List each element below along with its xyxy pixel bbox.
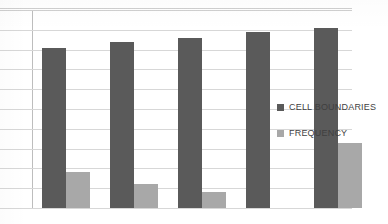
legend-entry-label: FREQUENCY: [289, 129, 347, 138]
bar-chart: CELL BOUNDARIES FREQUENCY: [0, 0, 388, 224]
legend-entry-label: CELL BOUNDARIES: [289, 103, 376, 112]
bar-frequency[interactable]: [134, 184, 158, 208]
gridline: [0, 208, 352, 209]
bar-cell-boundaries[interactable]: [178, 38, 202, 208]
bar-frequency[interactable]: [202, 192, 226, 208]
bar-cell-boundaries[interactable]: [42, 48, 66, 208]
bar-frequency[interactable]: [338, 143, 362, 208]
legend-swatch-icon: [277, 104, 284, 111]
legend-entry-cell-boundaries[interactable]: CELL BOUNDARIES: [277, 98, 385, 116]
bar-frequency[interactable]: [66, 172, 90, 208]
legend-swatch-icon: [277, 130, 284, 137]
chart-legend: CELL BOUNDARIES FREQUENCY: [277, 98, 385, 150]
gridline: [0, 8, 352, 9]
bar-cell-boundaries[interactable]: [110, 42, 134, 208]
legend-entry-frequency[interactable]: FREQUENCY: [277, 124, 385, 142]
bar-cell-boundaries[interactable]: [246, 32, 270, 208]
